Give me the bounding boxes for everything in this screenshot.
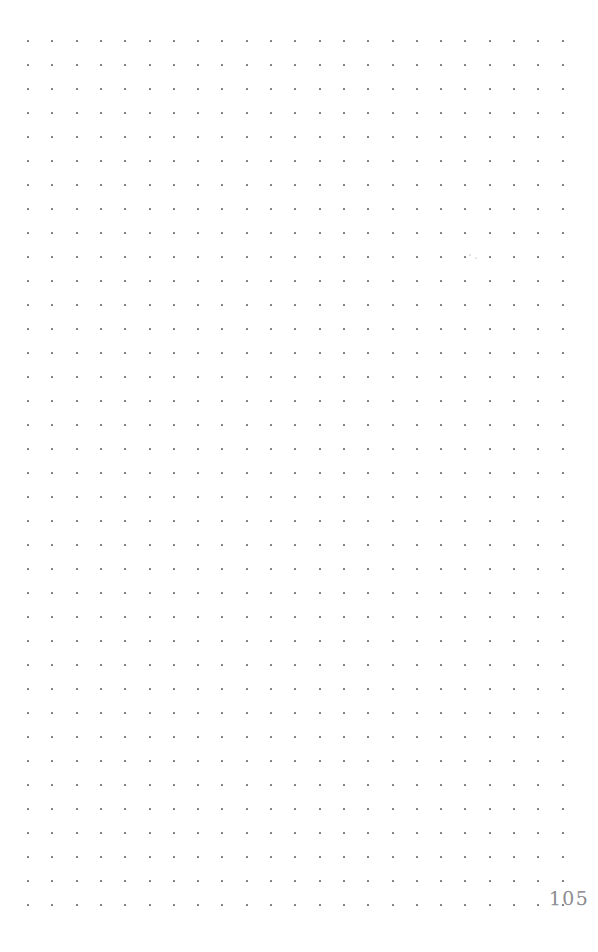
grid-dot (367, 472, 369, 474)
grid-dot (124, 616, 126, 618)
grid-dot (197, 112, 199, 114)
grid-dot (149, 496, 151, 498)
grid-dot (319, 544, 321, 546)
grid-dot (392, 304, 394, 306)
grid-dot (537, 760, 539, 762)
grid-dot (440, 136, 442, 138)
grid-dot (294, 592, 296, 594)
grid-dot (51, 352, 53, 354)
grid-dot (537, 736, 539, 738)
grid-dot (197, 784, 199, 786)
grid-dot (343, 760, 345, 762)
grid-dot (221, 400, 223, 402)
grid-dot (294, 568, 296, 570)
grid-dot (416, 400, 418, 402)
grid-dot (270, 424, 272, 426)
grid-dot (27, 40, 29, 42)
grid-dot (343, 616, 345, 618)
grid-dot (27, 304, 29, 306)
grid-dot (197, 496, 199, 498)
grid-dot (416, 112, 418, 114)
grid-dot (197, 64, 199, 66)
grid-dot (464, 688, 466, 690)
grid-dot (221, 856, 223, 858)
grid-dot (246, 856, 248, 858)
grid-dot (537, 352, 539, 354)
grid-dot (221, 904, 223, 906)
grid-dot (513, 856, 515, 858)
grid-dot (489, 688, 491, 690)
grid-dot (392, 208, 394, 210)
grid-dot (440, 424, 442, 426)
grid-dot (197, 160, 199, 162)
grid-dot (392, 856, 394, 858)
grid-dot (27, 472, 29, 474)
grid-dot (513, 640, 515, 642)
grid-dot (246, 904, 248, 906)
grid-dot (149, 352, 151, 354)
grid-dot (197, 280, 199, 282)
grid-dot (392, 88, 394, 90)
scan-speck (469, 254, 470, 255)
grid-dot (270, 208, 272, 210)
grid-dot (392, 376, 394, 378)
grid-dot (149, 544, 151, 546)
grid-dot (489, 88, 491, 90)
grid-dot (367, 736, 369, 738)
grid-dot (319, 256, 321, 258)
grid-dot (124, 328, 126, 330)
grid-dot (27, 400, 29, 402)
grid-dot (319, 784, 321, 786)
grid-dot (173, 40, 175, 42)
grid-dot (173, 208, 175, 210)
grid-dot (221, 520, 223, 522)
grid-dot (343, 832, 345, 834)
grid-dot (51, 448, 53, 450)
grid-dot (246, 472, 248, 474)
grid-dot (76, 544, 78, 546)
grid-dot (464, 304, 466, 306)
grid-dot (343, 64, 345, 66)
grid-dot (270, 640, 272, 642)
grid-dot (537, 280, 539, 282)
grid-dot (173, 856, 175, 858)
grid-dot (51, 688, 53, 690)
grid-dot (221, 472, 223, 474)
grid-dot (76, 736, 78, 738)
grid-dot (489, 208, 491, 210)
grid-dot (294, 400, 296, 402)
grid-dot (27, 880, 29, 882)
grid-dot (76, 208, 78, 210)
grid-dot (173, 544, 175, 546)
grid-dot (343, 544, 345, 546)
grid-dot (27, 736, 29, 738)
grid-dot (149, 880, 151, 882)
grid-dot (464, 424, 466, 426)
grid-dot (440, 208, 442, 210)
grid-dot (440, 160, 442, 162)
grid-dot (294, 520, 296, 522)
grid-dot (319, 568, 321, 570)
grid-dot (124, 568, 126, 570)
grid-dot (270, 256, 272, 258)
grid-dot (537, 400, 539, 402)
grid-dot (221, 160, 223, 162)
grid-dot (100, 352, 102, 354)
grid-dot (124, 760, 126, 762)
grid-dot (27, 256, 29, 258)
grid-dot (562, 424, 564, 426)
grid-dot (197, 616, 199, 618)
grid-dot (27, 520, 29, 522)
grid-dot (440, 616, 442, 618)
grid-dot (294, 856, 296, 858)
grid-dot (294, 664, 296, 666)
grid-dot (440, 568, 442, 570)
grid-dot (294, 544, 296, 546)
grid-dot (343, 232, 345, 234)
grid-dot (246, 568, 248, 570)
grid-dot (27, 712, 29, 714)
grid-dot (51, 712, 53, 714)
grid-dot (392, 664, 394, 666)
grid-dot (319, 616, 321, 618)
grid-dot (246, 40, 248, 42)
